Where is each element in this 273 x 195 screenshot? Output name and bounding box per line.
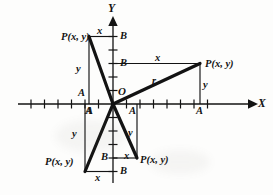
q4-x-foot-label: A (129, 106, 136, 117)
x-axis-label: X (258, 98, 266, 110)
diagram-canvas (0, 0, 273, 195)
q4-x-leg-label: x (124, 151, 129, 162)
point-label-quadrant-3: P(x, y) (45, 157, 74, 168)
y-axis-label: Y (108, 3, 115, 15)
q4-y-leg-label: y (128, 128, 133, 139)
q2-x-leg-label: x (97, 26, 102, 37)
point-label-quadrant-2: P(x, y) (61, 32, 90, 43)
q1-radius-label: r (152, 76, 156, 87)
q3-x-leg-label: x (95, 173, 100, 184)
q3-x-foot-label: A (86, 106, 93, 117)
y-axis-arrowhead (108, 16, 117, 26)
q1-y-leg-label: y (203, 80, 208, 91)
q1-x-leg-label: x (155, 53, 160, 64)
point-label-quadrant-1: P(x, y) (205, 59, 234, 70)
q1-radius (113, 64, 200, 105)
quadrant-1-triangle (113, 64, 200, 105)
q4-y-foot-label: B (101, 152, 108, 163)
q2-x-foot-label-upper: A (78, 88, 85, 99)
x-axis-arrowhead (248, 99, 258, 109)
q1-y-foot-label: B (120, 58, 127, 69)
q1-x-foot-label: A (196, 106, 203, 117)
q2-y-leg-label: y (76, 64, 81, 75)
coordinate-plane-figure: X Y O P(x, y) x y A A B P(x, y) x y r A … (0, 0, 273, 195)
q3-y-foot-label: B (120, 166, 127, 177)
q2-y-foot-label: B (120, 31, 127, 42)
origin-label: O (118, 86, 126, 97)
quadrant-2-triangle (89, 37, 113, 105)
q3-y-leg-label: y (72, 129, 77, 140)
q2-radius (89, 37, 113, 105)
point-label-quadrant-4: P(x, y) (140, 155, 169, 166)
